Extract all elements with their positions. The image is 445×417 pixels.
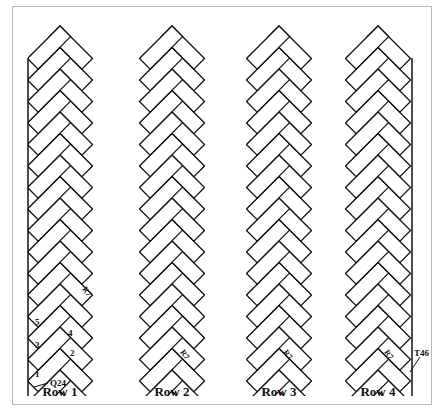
callout-t46: T46 (414, 348, 429, 358)
herringbone-strip-row-2 (140, 26, 205, 413)
row-2-label: Row 2 (154, 384, 189, 400)
row-4-label: Row 4 (360, 384, 395, 400)
piece-number-4: 4 (68, 328, 73, 338)
herringbone-strip-row-1 (28, 26, 93, 413)
piece-number-3: 3 (35, 340, 40, 350)
herringbone-strip-row-3 (247, 26, 312, 413)
piece-number-1: 1 (35, 369, 40, 379)
piece-number-5: 5 (35, 317, 40, 327)
row-3-label: Row 3 (261, 384, 296, 400)
herringbone-diagram (0, 0, 445, 417)
piece-number-2: 2 (70, 348, 75, 358)
herringbone-strip-row-4 (346, 26, 411, 413)
callout-q24: Q24 (50, 378, 66, 388)
